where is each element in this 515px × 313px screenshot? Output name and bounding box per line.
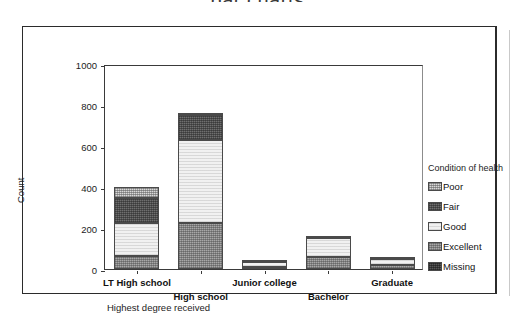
bar-lt-high-school[interactable] (114, 187, 159, 269)
y-tick-mark (101, 271, 105, 272)
bar-high-school[interactable] (178, 113, 223, 269)
legend-label: Good (443, 221, 466, 232)
bar-segment-excellent (178, 223, 223, 269)
legend-swatch-missing-icon (428, 262, 442, 271)
bar-segment-good (178, 140, 223, 223)
y-tick-mark (101, 148, 105, 149)
bar-junior-college[interactable] (242, 261, 287, 269)
legend-swatch-poor-icon (428, 182, 442, 191)
legend-label: Excellent (443, 241, 482, 252)
bar-segment-excellent (114, 256, 159, 269)
bar-segment-poor (306, 236, 351, 238)
legend-swatch-good-icon (428, 222, 442, 231)
x-tick-mark (265, 271, 266, 274)
y-tick-mark (101, 189, 105, 190)
legend-item-good[interactable]: Good (428, 220, 515, 232)
legend-label: Fair (443, 201, 459, 212)
y-tick-label: 600 (63, 142, 97, 153)
y-tick-label: 800 (63, 101, 97, 112)
bar-graduate[interactable] (370, 258, 415, 269)
legend-label: Missing (443, 261, 475, 272)
bar-segment-good (242, 262, 287, 266)
figure-frame: 02004006008001000 LT High schoolHigh sch… (22, 26, 497, 294)
bar-segment-good (370, 259, 415, 266)
legend-item-excellent[interactable]: Excellent (428, 240, 515, 252)
x-tick-label: High school (146, 291, 256, 302)
y-tick-label: 400 (63, 183, 97, 194)
x-tick-mark (201, 271, 202, 274)
x-tick-mark (328, 271, 329, 274)
legend-item-missing[interactable]: Missing (428, 260, 515, 272)
legend-rows: PoorFairGoodExcellentMissing (428, 180, 515, 272)
bar-segment-poor (114, 187, 159, 198)
bar-segment-poor (370, 257, 415, 259)
y-tick-mark (101, 230, 105, 231)
bar-segment-poor (242, 260, 287, 262)
legend-swatch-fair-icon (428, 202, 442, 211)
y-tick-mark (101, 66, 105, 67)
page-title: bar charts (0, 0, 515, 2)
legend: Condition of health PoorFairGoodExcellen… (428, 163, 515, 280)
y-tick-label: 0 (63, 265, 97, 276)
bar-segment-good (306, 238, 351, 256)
y-axis-title: Count (15, 178, 26, 203)
bar-segment-excellent (306, 257, 351, 269)
x-tick-label: Bachelor (273, 291, 383, 302)
y-tick-label: 1000 (63, 60, 97, 71)
legend-label: Poor (443, 181, 463, 192)
legend-swatch-excellent-icon (428, 242, 442, 251)
bar-segment-excellent (370, 265, 415, 269)
bar-segment-excellent (242, 267, 287, 269)
legend-item-fair[interactable]: Fair (428, 200, 515, 212)
x-tick-label: Junior college (210, 277, 320, 288)
bar-segment-fair (114, 198, 159, 223)
legend-title: Condition of health (428, 163, 515, 173)
x-tick-label: LT High school (82, 277, 192, 288)
bar-segment-poor (178, 113, 223, 115)
y-tick-mark (101, 107, 105, 108)
legend-item-poor[interactable]: Poor (428, 180, 515, 192)
plot-area: 02004006008001000 LT High schoolHigh sch… (104, 65, 423, 270)
bar-segment-good (114, 223, 159, 256)
bar-segment-fair (178, 115, 223, 140)
y-tick-label: 200 (63, 224, 97, 235)
x-tick-mark (137, 271, 138, 274)
x-axis-title: Highest degree received (107, 302, 210, 313)
x-tick-mark (392, 271, 393, 274)
bar-bachelor[interactable] (306, 236, 351, 269)
